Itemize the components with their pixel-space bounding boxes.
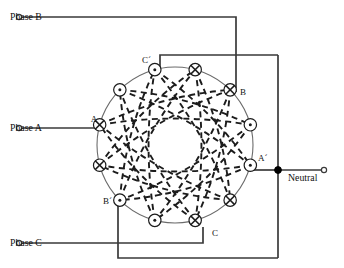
neutral-junction-dot [275, 167, 282, 174]
coil-chord [195, 70, 201, 221]
current-out-of-page-icon [118, 199, 121, 202]
slot-3[interactable] [244, 119, 256, 131]
winding-diagram-canvas: Phase B Phase A Phase C Neutral A B C A´… [0, 0, 344, 268]
slot-b-prime[interactable] [114, 194, 126, 206]
phase-c-label: Phase C [10, 237, 42, 248]
coil-chord [155, 70, 230, 200]
label-layer: Phase B Phase A Phase C Neutral A B C A´… [10, 11, 318, 248]
node-c-label: C [212, 228, 218, 238]
node-b-label: B [240, 87, 246, 97]
current-out-of-page-icon [249, 164, 252, 167]
current-out-of-page-icon [118, 88, 121, 91]
neutral-label: Neutral [288, 172, 318, 183]
node-b-prime-label: B´ [103, 196, 112, 206]
slot-c-prime[interactable] [149, 63, 161, 75]
node-a-prime-label: A´ [258, 153, 268, 163]
external-wiring-group [22, 17, 322, 258]
coil-chord [120, 90, 195, 220]
slot-a-prime[interactable] [244, 159, 256, 171]
coil-chord [120, 125, 250, 200]
slot-9[interactable] [93, 159, 105, 171]
coil-chord [100, 119, 251, 125]
terminal-symbols-group [16, 14, 326, 245]
slot-b[interactable] [224, 84, 236, 96]
slot-11[interactable] [114, 84, 126, 96]
slot-c[interactable] [189, 214, 201, 226]
slot-5[interactable] [224, 194, 236, 206]
coil-chord [100, 90, 230, 165]
phase-a-label: Phase A [10, 122, 42, 133]
current-out-of-page-icon [153, 219, 156, 222]
slot-1[interactable] [189, 63, 201, 75]
phase-c-wire [22, 227, 203, 243]
winding-diagram-root: Phase B Phase A Phase C Neutral A B C A´… [0, 0, 344, 268]
slot-marker-layer [93, 63, 256, 226]
node-c-prime-label: C´ [142, 55, 151, 65]
phase-b-label: Phase B [10, 11, 42, 22]
c-prime-neutral-wire [160, 55, 278, 68]
neutral-terminal-icon[interactable] [321, 167, 326, 172]
b-prime-neutral-wire [118, 200, 278, 258]
current-out-of-page-icon [249, 123, 252, 126]
coil-chord [149, 70, 155, 221]
node-a-label: A [91, 114, 98, 124]
slot-7[interactable] [149, 214, 161, 226]
coil-chord [100, 165, 251, 171]
current-out-of-page-icon [153, 68, 156, 71]
